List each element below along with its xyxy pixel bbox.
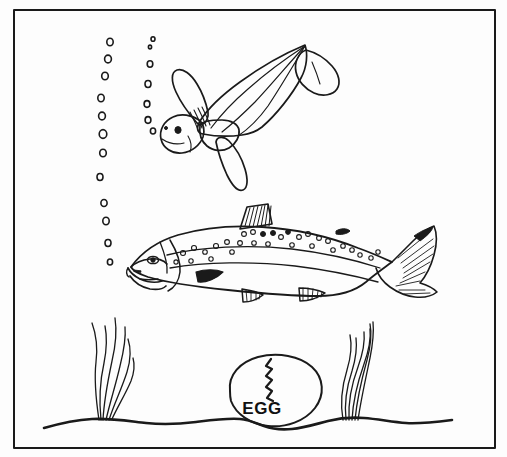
illustration-page: EGG bbox=[0, 0, 507, 457]
egg-label: EGG bbox=[242, 399, 281, 418]
underwater-scene: EGG bbox=[0, 0, 507, 457]
turtle-eye bbox=[175, 127, 181, 134]
turtle-nostril bbox=[165, 127, 168, 130]
salmon-pupil bbox=[151, 258, 155, 262]
salmon-nostril bbox=[134, 270, 141, 272]
